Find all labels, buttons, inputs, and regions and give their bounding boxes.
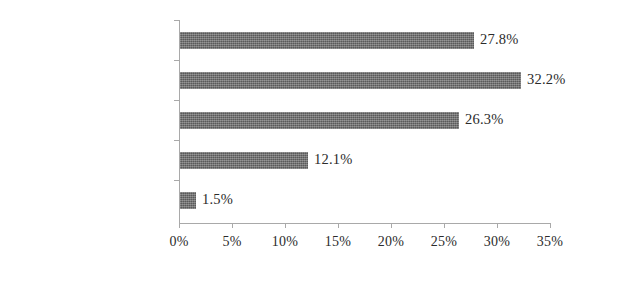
x-tick-mark (444, 223, 445, 228)
bar-segment[interactable] (180, 32, 474, 49)
x-tick-label: 25% (414, 234, 474, 250)
bar-value-label: 1.5% (202, 191, 233, 208)
x-tick-label: 5% (202, 234, 262, 250)
x-tick-label: 0% (149, 234, 209, 250)
bar-segment[interactable] (180, 152, 308, 169)
y-tick-mark (174, 20, 179, 21)
bar-segment[interactable] (180, 192, 196, 209)
y-tick-mark (174, 140, 179, 141)
x-tick-mark (497, 223, 498, 228)
x-tick-label: 10% (255, 234, 315, 250)
bar-value-label: 12.1% (314, 151, 352, 168)
x-tick-label: 35% (520, 234, 580, 250)
x-tick-mark (338, 223, 339, 228)
bar-row: Very familiar 1.5% (179, 180, 550, 220)
bar-value-label: 32.2% (527, 71, 565, 88)
y-tick-mark (174, 60, 179, 61)
x-tick-mark (179, 223, 180, 228)
x-tick-mark (285, 223, 286, 228)
x-tick-mark (550, 223, 551, 228)
x-axis-line (179, 223, 551, 224)
bar-value-label: 27.8% (480, 31, 518, 48)
bar-segment[interactable] (180, 72, 521, 89)
y-tick-mark (174, 100, 179, 101)
x-tick-mark (391, 223, 392, 228)
x-tick-label: 15% (308, 234, 368, 250)
bar-segment[interactable] (180, 112, 459, 129)
bar-chart: Don't know 27.8% Slightly know 32.2% Mod… (0, 0, 631, 283)
x-tick-label: 30% (467, 234, 527, 250)
plot-area: Don't know 27.8% Slightly know 32.2% Mod… (179, 20, 550, 223)
bar-row: Slightly know 32.2% (179, 60, 550, 100)
bar-row: Moderately know 26.3% (179, 100, 550, 140)
bar-value-label: 26.3% (465, 111, 503, 128)
bar-row: Rather familiar 12.1% (179, 140, 550, 180)
y-tick-mark (174, 180, 179, 181)
bar-row: Don't know 27.8% (179, 20, 550, 60)
x-tick-label: 20% (361, 234, 421, 250)
x-tick-mark (232, 223, 233, 228)
